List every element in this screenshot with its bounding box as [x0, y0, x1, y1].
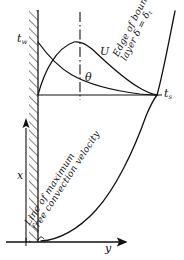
curve-foot-tick	[38, 237, 44, 240]
velocity-profile-curve	[38, 42, 157, 95]
free-convection-boundary-layer-diagram: tw ts U θ x y Edge of boundary layer δ =…	[0, 0, 184, 260]
temperature-profile-label: θ	[85, 72, 92, 83]
vertical-axis-label: x	[17, 170, 23, 181]
wall-temperature-label: tw	[17, 33, 27, 46]
velocity-profile-label: U	[100, 46, 109, 57]
horizontal-axis-label: y	[105, 243, 111, 254]
surroundings-temperature-label: ts	[164, 88, 172, 101]
